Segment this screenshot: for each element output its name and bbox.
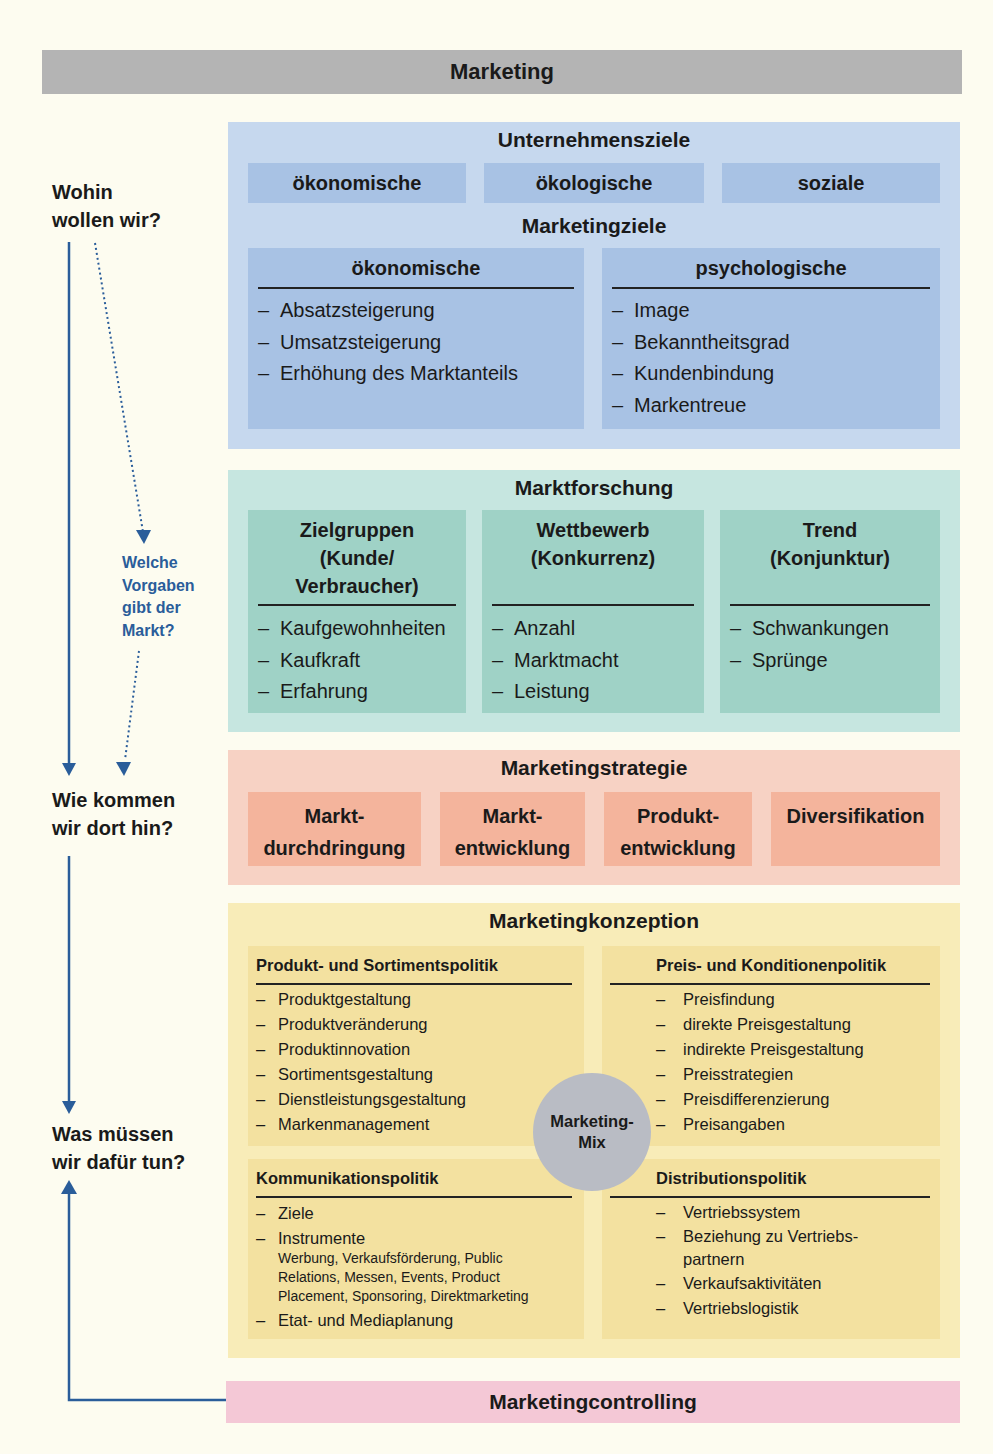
strategie-marktdurchdringung: Markt-durchdringung [248,792,421,866]
divider [256,983,572,985]
question-line: Vorgaben [122,575,195,598]
divider [610,983,930,985]
column-head: ökonomische [248,248,584,282]
question-line: Was müssen [52,1120,185,1148]
quadrant-preis: Preis- und Konditionenpolitik Preisfindu… [602,946,940,1146]
list-item: Preisangaben [656,1112,864,1137]
list-item: direkte Preisgestaltung [656,1012,864,1037]
divider [610,1196,930,1198]
marketingziele-title: Marketingziele [228,214,960,238]
strategy-line: entwicklung [455,832,571,864]
question-wie: Wie kommen wir dort hin? [52,786,175,842]
instrument-list: Vertriebssystem Beziehung zu Vertriebs-p… [656,1200,858,1321]
question-was: Was müssen wir dafür tun? [52,1120,185,1176]
head-line: (Konkurrenz) [482,544,704,572]
quadrant-head: Produkt- und Sortimentspolitik [256,954,498,976]
list-item: Kundenbindung [612,358,790,390]
mix-line: Mix [550,1132,633,1153]
instrument-list: Ziele Instrumente Werbung, Verkaufsförde… [256,1201,576,1333]
marketingziele-oekonomisch: ökonomische Absatzsteigerung Umsatzsteig… [248,248,584,429]
list-item: Beziehung zu Vertriebs-partnern [656,1225,858,1271]
divider [258,287,574,289]
marketingcontrolling-title: Marketingcontrolling [489,1390,697,1414]
instrumente-note: Werbung, Verkaufsförderung, Public Relat… [256,1249,576,1306]
list-item: Preisdifferenzierung [656,1087,864,1112]
marktforschung-zielgruppen: Zielgruppen (Kunde/ Verbraucher) Kaufgew… [248,510,466,713]
factor-list: Kaufgewohnheiten Kaufkraft Erfahrung [258,613,446,708]
question-line: Wohin [52,178,161,206]
mix-line: Marketing- [550,1111,633,1132]
marketingziele-psychologisch: psychologische Image Bekanntheitsgrad Ku… [602,248,940,429]
question-line: Wie kommen [52,786,175,814]
list-item: Kaufkraft [258,645,446,677]
instrument-list: Preisfindung direkte Preisgestaltung ind… [656,987,864,1137]
divider [256,1196,572,1198]
list-item: Erhöhung des Marktanteils [258,358,518,390]
quadrant-head: Distributionspolitik [656,1167,806,1189]
ziel-label: ökologische [536,172,653,195]
divider [612,287,930,289]
list-item: Image [612,295,790,327]
marketing-mix-circle: Marketing- Mix [533,1073,651,1191]
strategy-line: Produkt- [620,800,736,832]
factor-list: Anzahl Marktmacht Leistung [492,613,618,708]
list-item: Preisstrategien [656,1062,864,1087]
head-line: Verbraucher) [248,572,466,600]
list-item: Kaufgewohnheiten [258,613,446,645]
head-line: Wettbewerb [482,516,704,544]
quadrant-produkt: Produkt- und Sortimentspolitik Produktge… [248,946,584,1146]
strategy-line: Diversifikation [787,800,925,832]
strategy-line: Markt- [455,800,571,832]
list-item: Dienstleistungsgestaltung [256,1087,466,1112]
list-item-text: Beziehung zu Vertriebs- [683,1227,858,1245]
marketingstrategie-title: Marketingstrategie [228,756,960,780]
strategie-diversifikation: Diversifikation [771,792,940,866]
column-head: Trend (Konjunktur) [720,510,940,572]
question-line: Welche [122,552,195,575]
title-bar: Marketing [42,50,962,94]
strategy-line: durchdringung [263,832,405,864]
feedback-arrow-icon [61,1180,226,1400]
note-line: Relations, Messen, Events, Product [278,1268,576,1287]
column-head: psychologische [602,248,940,282]
ziel-label: ökonomische [293,172,422,195]
note-line: Werbung, Verkaufsförderung, Public [278,1249,576,1268]
list-item: Sprünge [730,645,889,677]
list-item: Leistung [492,676,618,708]
list-item: indirekte Preisgestaltung [656,1037,864,1062]
marktforschung-wettbewerb: Wettbewerb (Konkurrenz) Anzahl Marktmach… [482,510,704,713]
factor-list: Schwankungen Sprünge [730,613,889,676]
marktforschung-title: Marktforschung [228,476,960,500]
section-controlling: Marketingcontrolling [226,1381,960,1423]
arrow-down-2-icon [62,856,76,1114]
marketingkonzeption-title: Marketingkonzeption [228,909,960,933]
list-item: Anzahl [492,613,618,645]
head-line: (Kunde/ [248,544,466,572]
column-head: Wettbewerb (Konkurrenz) [482,510,704,572]
strategy-line: Markt- [263,800,405,832]
strategie-produktentwicklung: Produkt-entwicklung [604,792,752,866]
list-item: Markenmanagement [256,1112,466,1137]
list-item: Marktmacht [492,645,618,677]
strategy-line: entwicklung [620,832,736,864]
list-item: Absatzsteigerung [258,295,518,327]
list-item: Erfahrung [258,676,446,708]
list-item: Ziele [256,1201,576,1226]
list-item: Preisfindung [656,987,864,1012]
head-line: Trend [720,516,940,544]
list-item: Produktinnovation [256,1037,466,1062]
list-item: Markentreue [612,390,790,422]
head-line: Zielgruppen [248,516,466,544]
ziel-label: soziale [798,172,865,195]
marktforschung-trend: Trend (Konjunktur) Schwankungen Sprünge [720,510,940,713]
quadrant-head: Preis- und Konditionenpolitik [656,954,886,976]
instrument-list: Produktgestaltung Produktveränderung Pro… [256,987,466,1137]
quadrant-distribution: Distributionspolitik Vertriebssystem Bez… [602,1159,940,1339]
goal-list: Absatzsteigerung Umsatzsteigerung Erhöhu… [258,295,518,390]
note-line: Placement, Sponsoring, Direktmarketing [278,1287,576,1306]
list-item: Bekanntheitsgrad [612,327,790,359]
list-item: Umsatzsteigerung [258,327,518,359]
dotted-arrow-market-icon [95,243,151,776]
question-line: wir dort hin? [52,814,175,842]
question-markt: Welche Vorgaben gibt der Markt? [122,552,195,642]
